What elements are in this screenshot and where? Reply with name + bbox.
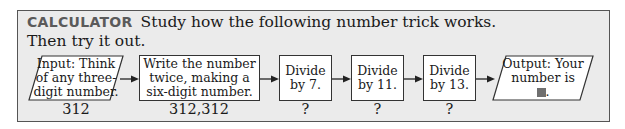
arrow-icon	[332, 74, 352, 84]
divide-by-11-text: Divide by 11.	[357, 64, 397, 92]
calculator-activity-panel: CALCULATORStudy how the following number…	[17, 10, 610, 122]
arrow-icon	[404, 74, 424, 84]
input-step: Input: Think of any three- digit number.	[28, 55, 124, 101]
arrow-icon	[260, 74, 280, 84]
divide-by-13-result: ?	[423, 101, 476, 117]
divide-by-7-step: Divide by 7.	[279, 55, 332, 101]
input-step-text: Input: Think of any three- digit number.	[34, 57, 119, 99]
answer-blank	[537, 88, 546, 97]
divide-by-13-step: Divide by 13.	[423, 55, 476, 101]
divide-by-11-step: Divide by 11.	[351, 55, 404, 101]
divide-by-7-text: Divide by 7.	[285, 64, 325, 92]
output-step-text: Output: Your number is .	[502, 57, 583, 99]
input-value: 312	[36, 101, 116, 117]
output-step: Output: Your number is .	[492, 55, 594, 101]
flowchart: Input: Think of any three- digit number.…	[18, 11, 611, 123]
six-digit-value: 312,312	[159, 101, 239, 117]
write-twice-step-text: Write the number twice, making a six-dig…	[143, 57, 255, 99]
divide-by-7-result: ?	[279, 101, 332, 117]
write-twice-step: Write the number twice, making a six-dig…	[139, 55, 260, 101]
divide-by-11-result: ?	[351, 101, 404, 117]
divide-by-13-text: Divide by 13.	[429, 64, 469, 92]
